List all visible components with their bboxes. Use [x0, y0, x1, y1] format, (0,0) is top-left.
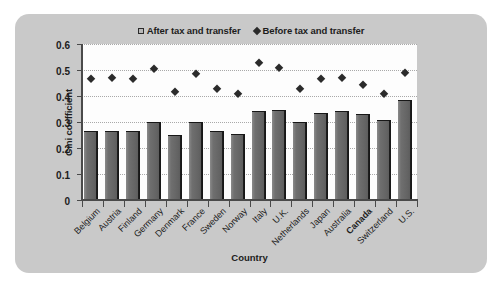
marker-before-tax — [212, 85, 221, 94]
chart-category-group — [375, 44, 396, 200]
legend-item-before-tax: Before tax and transfer — [254, 25, 365, 36]
y-axis-tick-label: 0.6 — [56, 40, 70, 51]
marker-before-tax — [359, 81, 368, 90]
marker-before-tax — [107, 74, 116, 83]
chart-category-group — [229, 44, 250, 200]
chart-category-group — [166, 44, 187, 200]
chart-legend: After tax and transfer Before tax and tr… — [15, 25, 487, 36]
chart-category-group — [312, 44, 333, 200]
legend-label-after-tax: After tax and transfer — [147, 25, 241, 36]
marker-before-tax — [317, 75, 326, 84]
y-axis-tick-label: 0.3 — [56, 118, 70, 129]
marker-before-tax — [86, 74, 95, 83]
marker-before-tax — [170, 88, 179, 97]
y-axis-tick-label: 0.4 — [56, 92, 70, 103]
square-marker-icon — [138, 28, 144, 34]
bar-after-tax — [272, 110, 286, 200]
chart-category-group — [270, 44, 291, 200]
chart-panel: After tax and transfer Before tax and tr… — [15, 14, 487, 273]
x-axis-title: Country — [82, 252, 417, 263]
marker-before-tax — [401, 69, 410, 78]
chart-category-group — [187, 44, 208, 200]
y-axis-tick-label: 0.1 — [56, 170, 70, 181]
marker-before-tax — [149, 64, 158, 73]
marker-before-tax — [338, 74, 347, 83]
chart-category-group — [82, 44, 103, 200]
y-axis-tick-label: 0.2 — [56, 144, 70, 155]
bar-after-tax — [84, 131, 98, 200]
chart-category-group — [250, 44, 271, 200]
chart-category-group — [145, 44, 166, 200]
chart-category-group — [396, 44, 417, 200]
chart-category-group — [354, 44, 375, 200]
bar-after-tax — [293, 122, 307, 200]
marker-before-tax — [296, 85, 305, 94]
marker-before-tax — [275, 64, 284, 73]
chart-category-group — [208, 44, 229, 200]
chart-category-group — [291, 44, 312, 200]
plot-area: 0.60.50.40.30.20.10 — [82, 44, 417, 200]
marker-before-tax — [254, 58, 263, 67]
diamond-marker-icon — [252, 26, 260, 34]
legend-label-before-tax: Before tax and transfer — [263, 25, 365, 36]
marker-before-tax — [380, 89, 389, 98]
marker-before-tax — [191, 69, 200, 78]
y-axis-tick-label: 0 — [64, 196, 70, 207]
marker-before-tax — [128, 75, 137, 84]
marker-before-tax — [233, 89, 242, 98]
y-axis-tick-label: 0.5 — [56, 66, 70, 77]
y-axis-line — [81, 44, 83, 201]
legend-item-after-tax: After tax and transfer — [138, 25, 241, 36]
chart-category-group — [124, 44, 145, 200]
chart-category-group — [103, 44, 124, 200]
